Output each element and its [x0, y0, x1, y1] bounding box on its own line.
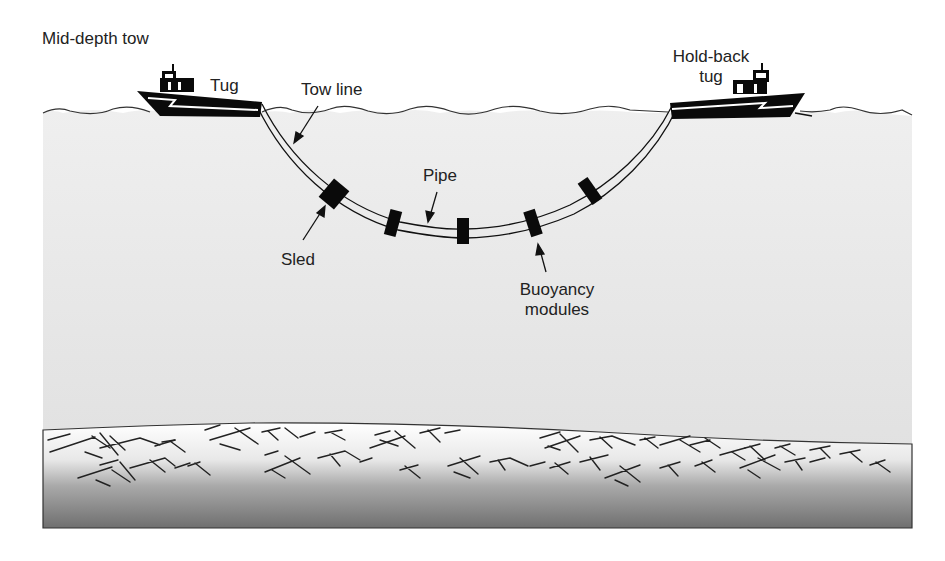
mid-depth-tow-diagram	[0, 0, 945, 561]
holdback-tug-label: Hold-back tug	[646, 47, 776, 87]
holdback-tug-label-line1: Hold-back	[646, 47, 776, 67]
buoyancy-label-line1: Buoyancy	[502, 280, 612, 300]
diagram-title: Mid-depth tow	[42, 29, 149, 49]
holdback-tug-label-line2: tug	[646, 67, 776, 87]
tug-icon	[137, 64, 262, 117]
tug-label: Tug	[210, 76, 239, 96]
buoyancy-label-line2: modules	[502, 300, 612, 320]
buoyancy-modules-label: Buoyancy modules	[502, 280, 612, 320]
sled-label: Sled	[281, 250, 315, 270]
tow-line-label: Tow line	[301, 80, 362, 100]
pipe-label: Pipe	[423, 166, 457, 186]
buoyancy-module	[457, 218, 469, 244]
